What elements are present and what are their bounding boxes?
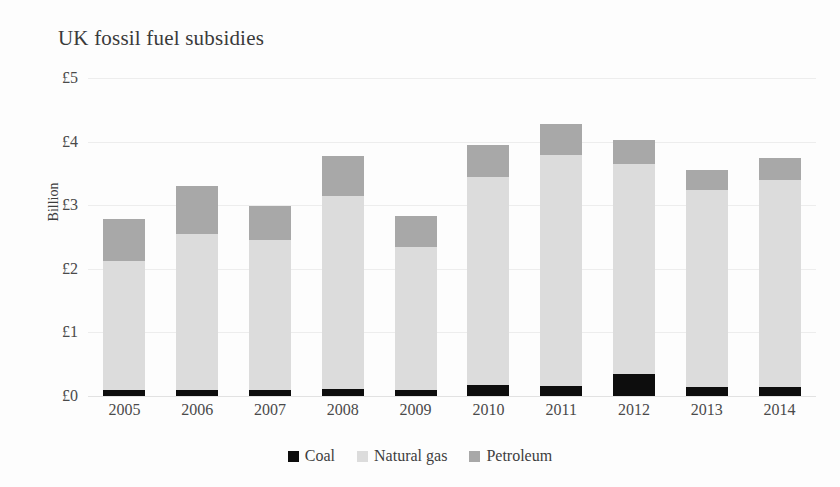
chart-legend: CoalNatural gasPetroleum bbox=[0, 447, 840, 465]
bar-segment-petroleum[interactable] bbox=[759, 158, 801, 181]
bar-segment-coal[interactable] bbox=[176, 390, 218, 396]
chart-container: UK fossil fuel subsidies Billion £5 £4 £… bbox=[0, 0, 840, 487]
bar-segment-natural-gas[interactable] bbox=[176, 234, 218, 390]
bar-group[interactable] bbox=[322, 156, 364, 396]
legend-swatch-icon bbox=[288, 451, 299, 462]
x-tick-label: 2005 bbox=[89, 401, 159, 419]
bar-segment-coal[interactable] bbox=[686, 387, 728, 396]
bar-segment-natural-gas[interactable] bbox=[395, 247, 437, 390]
bar-segment-natural-gas[interactable] bbox=[686, 190, 728, 387]
bar-segment-natural-gas[interactable] bbox=[103, 261, 145, 390]
bar-segment-petroleum[interactable] bbox=[176, 186, 218, 234]
bar-segment-natural-gas[interactable] bbox=[759, 180, 801, 387]
bar-segment-natural-gas[interactable] bbox=[467, 177, 509, 385]
bar-group[interactable] bbox=[759, 158, 801, 396]
bar-segment-coal[interactable] bbox=[759, 387, 801, 396]
y-tick-label: £3 bbox=[38, 196, 78, 214]
x-tick-label: 2014 bbox=[745, 401, 815, 419]
bar-group[interactable] bbox=[395, 216, 437, 396]
bar-group[interactable] bbox=[249, 206, 291, 396]
x-tick-label: 2009 bbox=[381, 401, 451, 419]
bar-segment-natural-gas[interactable] bbox=[322, 196, 364, 389]
x-axis-tick-labels: 2005200620072008200920102011201220132014 bbox=[88, 401, 816, 427]
bar-segment-natural-gas[interactable] bbox=[540, 155, 582, 386]
bar-group[interactable] bbox=[103, 219, 145, 396]
bar-segment-petroleum[interactable] bbox=[613, 140, 655, 164]
x-tick-label: 2012 bbox=[599, 401, 669, 419]
bar-segment-coal[interactable] bbox=[322, 389, 364, 396]
legend-swatch-icon bbox=[469, 451, 480, 462]
x-tick-label: 2008 bbox=[308, 401, 378, 419]
x-tick-label: 2011 bbox=[526, 401, 596, 419]
legend-item-natural-gas[interactable]: Natural gas bbox=[357, 447, 447, 465]
bar-segment-petroleum[interactable] bbox=[395, 216, 437, 247]
bar-segment-natural-gas[interactable] bbox=[613, 164, 655, 374]
bar-segment-coal[interactable] bbox=[613, 374, 655, 396]
y-tick-label: £1 bbox=[38, 323, 78, 341]
bar-group[interactable] bbox=[613, 140, 655, 396]
bar-group[interactable] bbox=[176, 186, 218, 396]
bar-segment-coal[interactable] bbox=[395, 390, 437, 396]
y-tick-label: £4 bbox=[38, 132, 78, 150]
bar-group[interactable] bbox=[686, 170, 728, 396]
chart-title: UK fossil fuel subsidies bbox=[58, 26, 264, 51]
legend-item-petroleum[interactable]: Petroleum bbox=[469, 447, 552, 465]
legend-label: Coal bbox=[305, 447, 335, 465]
y-tick-label: £5 bbox=[38, 69, 78, 87]
bar-segment-coal[interactable] bbox=[540, 386, 582, 396]
legend-swatch-icon bbox=[357, 451, 368, 462]
bar-segment-natural-gas[interactable] bbox=[249, 240, 291, 390]
gridline-0 bbox=[88, 396, 816, 397]
bar-segment-coal[interactable] bbox=[103, 390, 145, 396]
bar-segment-petroleum[interactable] bbox=[103, 219, 145, 261]
legend-item-coal[interactable]: Coal bbox=[288, 447, 335, 465]
bar-segment-coal[interactable] bbox=[467, 385, 509, 396]
bar-segment-petroleum[interactable] bbox=[540, 124, 582, 155]
bar-segment-petroleum[interactable] bbox=[249, 206, 291, 240]
bar-segment-petroleum[interactable] bbox=[686, 170, 728, 190]
y-axis-tick-labels: £5 £4 £3 £2 £1 £0 bbox=[38, 78, 84, 396]
bars-layer bbox=[88, 78, 816, 396]
bar-segment-coal[interactable] bbox=[249, 390, 291, 396]
bar-group[interactable] bbox=[540, 124, 582, 396]
y-tick-label: £0 bbox=[38, 387, 78, 405]
x-tick-label: 2010 bbox=[453, 401, 523, 419]
bar-segment-petroleum[interactable] bbox=[322, 156, 364, 196]
x-tick-label: 2006 bbox=[162, 401, 232, 419]
legend-label: Natural gas bbox=[374, 447, 447, 465]
y-tick-label: £2 bbox=[38, 259, 78, 277]
x-tick-label: 2007 bbox=[235, 401, 305, 419]
bar-group[interactable] bbox=[467, 145, 509, 396]
x-tick-label: 2013 bbox=[672, 401, 742, 419]
bar-segment-petroleum[interactable] bbox=[467, 145, 509, 177]
legend-label: Petroleum bbox=[486, 447, 552, 465]
